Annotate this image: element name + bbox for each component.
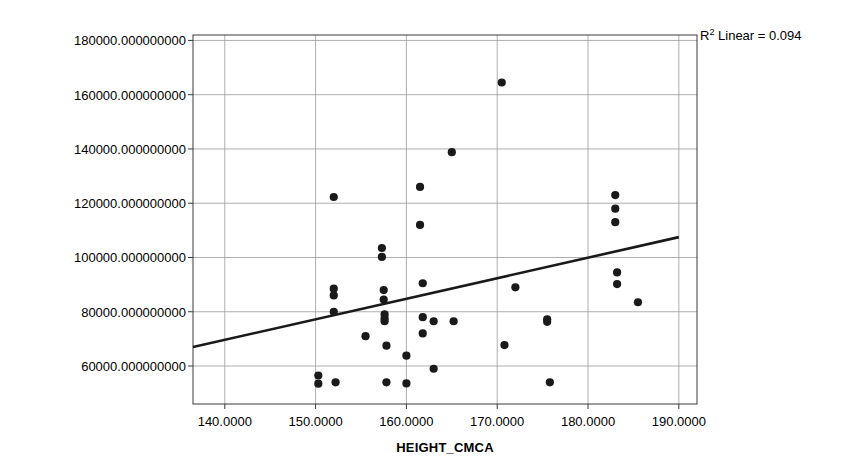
data-point bbox=[611, 205, 619, 213]
data-point bbox=[613, 268, 621, 276]
data-point bbox=[498, 78, 506, 86]
data-point bbox=[314, 380, 322, 388]
axis-tickmarks bbox=[188, 40, 679, 409]
data-point bbox=[331, 378, 339, 386]
data-point bbox=[416, 183, 424, 191]
plot-canvas bbox=[0, 0, 847, 469]
data-point bbox=[611, 218, 619, 226]
data-point bbox=[361, 332, 369, 340]
data-points bbox=[314, 78, 642, 387]
data-point bbox=[419, 279, 427, 287]
data-point bbox=[430, 317, 438, 325]
plot-frame bbox=[193, 35, 697, 404]
data-point bbox=[511, 283, 519, 291]
data-point bbox=[381, 317, 389, 325]
data-point bbox=[546, 378, 554, 386]
data-point bbox=[450, 317, 458, 325]
data-point bbox=[382, 342, 390, 350]
data-point bbox=[330, 193, 338, 201]
scatter-plot-figure: WEIGHT_WTGCAL 60000.00000000080000.00000… bbox=[0, 0, 847, 469]
data-point bbox=[500, 341, 508, 349]
linear-fit-line bbox=[193, 237, 679, 347]
data-point bbox=[634, 298, 642, 306]
data-point bbox=[611, 191, 619, 199]
data-point bbox=[430, 365, 438, 373]
data-point bbox=[380, 286, 388, 294]
data-point bbox=[448, 148, 456, 156]
data-point bbox=[378, 244, 386, 252]
data-point bbox=[613, 280, 621, 288]
data-point bbox=[382, 378, 390, 386]
data-point bbox=[314, 371, 322, 379]
data-point bbox=[416, 221, 424, 229]
data-point bbox=[402, 352, 410, 360]
data-point bbox=[330, 291, 338, 299]
data-point bbox=[402, 379, 410, 387]
gridlines bbox=[193, 35, 697, 404]
data-point bbox=[543, 318, 551, 326]
data-point bbox=[378, 253, 386, 261]
data-point bbox=[419, 329, 427, 337]
data-point bbox=[419, 313, 427, 321]
